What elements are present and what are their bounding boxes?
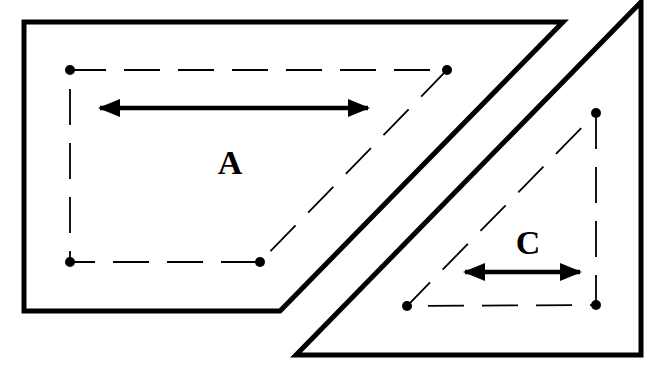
shape-a-vertex-dot [65,65,75,75]
shape-c-label: C [516,224,541,261]
shape-a-label: A [218,144,243,181]
shape-c-vertex-dot [591,108,601,118]
shape-c-outline [296,2,641,355]
diagram-canvas: A C [0,0,651,372]
shape-c-vertex-dot [591,300,601,310]
shape-c: C [296,2,641,355]
shape-a-vertex-dot [255,257,265,267]
shape-c-vertex-dot [402,301,412,311]
shape-a-dashed-outline [70,70,447,262]
shape-a-vertex-dot [65,257,75,267]
shape-a-vertex-dot [442,65,452,75]
